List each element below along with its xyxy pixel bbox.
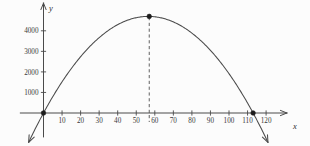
x-tick-label: 80 (188, 117, 196, 125)
x-tick-label: 120 (261, 117, 272, 125)
y-tick-label: 4000 (24, 27, 39, 35)
x-tick-label: 100 (224, 117, 235, 125)
x-tick-label: 70 (170, 117, 178, 125)
y-tick-label: 3000 (24, 48, 39, 56)
parabola-plot: 1020304050607080901001101201000200030004… (0, 0, 310, 146)
tick-labels-group: 1020304050607080901001101201000200030004… (24, 27, 272, 125)
y-tick-label: 2000 (24, 69, 39, 77)
y-axis-label: y (48, 3, 53, 13)
x-tick-label: 50 (133, 117, 141, 125)
chart-figure: 1020304050607080901001101201000200030004… (0, 0, 310, 146)
x-axis-label: x (292, 121, 297, 131)
x-tick-label: 110 (242, 117, 253, 125)
right-root-point (251, 111, 256, 116)
x-tick-label: 90 (207, 117, 215, 125)
left-root-point (41, 111, 46, 116)
x-tick-label: 30 (96, 117, 104, 125)
ticks-group (41, 31, 266, 116)
x-tick-label: 60 (151, 117, 159, 125)
x-tick-label: 40 (114, 117, 122, 125)
x-tick-label: 10 (58, 117, 66, 125)
annotation-group (41, 14, 255, 122)
vertex-point (147, 14, 152, 19)
x-tick-label: 20 (77, 117, 85, 125)
y-tick-label: 1000 (24, 89, 39, 97)
